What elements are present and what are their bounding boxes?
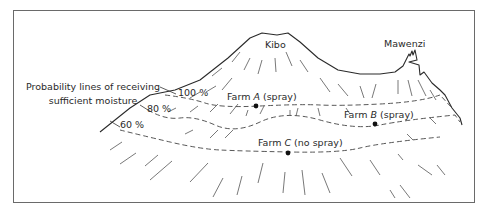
- farm-c-marker: [286, 151, 291, 156]
- figure-title: Probability lines of receiving sufficien…: [18, 81, 168, 106]
- probability-label-60: 60 %: [120, 119, 144, 130]
- probability-label-100: 100 %: [178, 87, 208, 98]
- farm-a-label: Farm A (spray): [227, 91, 297, 102]
- mountain-illustration: [0, 0, 489, 215]
- farm-b-marker: [373, 122, 378, 127]
- title-line-1: Probability lines of receiving: [18, 81, 168, 92]
- farm-b-label: Farm B (spray): [344, 109, 414, 120]
- peak-label-mawenzi: Mawenzi: [384, 38, 425, 49]
- farm-c-label: Farm C (no spray): [258, 137, 343, 148]
- peak-label-kibo: Kibo: [265, 39, 286, 50]
- probability-label-80: 80 %: [147, 103, 171, 114]
- title-line-2: sufficient moisture: [18, 95, 168, 106]
- leader-60: [110, 121, 120, 127]
- farm-a-marker: [254, 104, 259, 109]
